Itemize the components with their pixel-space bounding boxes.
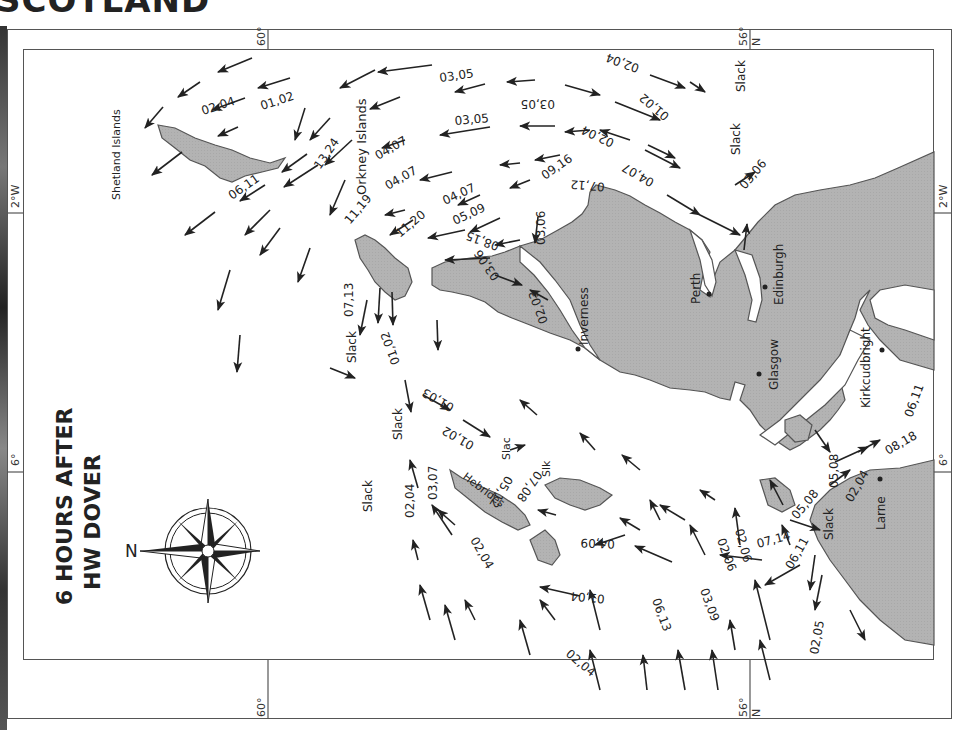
- compass-rose: [140, 499, 260, 603]
- place-kirkcudbright: Kirkcudbright: [859, 327, 873, 408]
- tidal-stream-map: 60° 56° N 60° 56° N 2°W 6° 2°W 6°: [0, 0, 959, 730]
- graticule-label-2w-right: 2°W: [937, 185, 950, 208]
- svg-text:04,07: 04,07: [440, 181, 477, 208]
- svg-text:08,18: 08,18: [883, 428, 920, 457]
- graticule-label-56-top: 56°: [737, 27, 750, 47]
- orkney-islands: [355, 235, 412, 300]
- svg-text:07,08: 07,08: [514, 468, 545, 504]
- svg-text:04,09: 04,09: [580, 536, 615, 551]
- place-larne: Larne: [874, 496, 888, 530]
- svg-text:07,12: 07,12: [570, 177, 605, 194]
- graticule-label-60-top: 60°: [255, 27, 268, 47]
- svg-text:Slack: Slack: [391, 408, 405, 440]
- place-shetland: Shetland Islands: [110, 109, 123, 200]
- svg-text:03,05: 03,05: [454, 111, 489, 128]
- svg-text:02,05: 02,05: [807, 619, 827, 655]
- svg-text:01,02: 01,02: [440, 423, 477, 452]
- svg-text:03,05: 03,05: [438, 66, 474, 85]
- place-glasgow: Glasgow: [767, 339, 781, 390]
- svg-text:01,04: 01,04: [570, 589, 605, 606]
- svg-text:01,02: 01,02: [259, 89, 296, 113]
- svg-text:05,08: 05,08: [827, 454, 841, 488]
- graticule-label-6-right: 6°: [937, 454, 950, 467]
- place-perth: Perth: [689, 273, 703, 304]
- graticule-label-60-bottom: 60°: [255, 698, 268, 718]
- svg-text:04,07: 04,07: [373, 133, 410, 162]
- svg-text:02,04: 02,04: [579, 123, 616, 150]
- svg-text:Slack: Slack: [734, 60, 748, 92]
- svg-text:03,06: 03,06: [534, 211, 548, 245]
- inner-hebrides-skye: [545, 478, 612, 510]
- graticule-label-n-top: N: [750, 38, 763, 46]
- inner-hebrides-mull: [530, 530, 560, 565]
- graticule-label-2w-left: 2°W: [9, 185, 22, 208]
- svg-text:02,04: 02,04: [200, 94, 237, 118]
- svg-text:05,09: 05,09: [450, 201, 487, 228]
- graticule-label-6-left: 6°: [9, 454, 22, 467]
- map-title-line1: 6 HOURS AFTER: [52, 408, 77, 605]
- graticule-label-56-bottom: 56°: [737, 698, 750, 718]
- svg-text:04,07: 04,07: [383, 163, 420, 192]
- svg-text:Slack: Slack: [729, 123, 743, 155]
- svg-text:03,06: 03,06: [737, 157, 770, 192]
- svg-text:06,11: 06,11: [902, 382, 927, 419]
- svg-text:03,05: 03,05: [521, 97, 555, 111]
- svg-text:01,02: 01,02: [378, 330, 403, 367]
- svg-text:02,04: 02,04: [563, 647, 598, 680]
- svg-text:07,14: 07,14: [755, 528, 792, 550]
- svg-text:11,19: 11,19: [342, 192, 375, 227]
- map-title-line2: HW DOVER: [80, 454, 105, 590]
- svg-text:Slac: Slac: [500, 437, 513, 460]
- svg-text:Slack: Slack: [822, 508, 836, 540]
- svg-text:02,04: 02,04: [604, 50, 641, 75]
- svg-text:06,13: 06,13: [649, 596, 674, 633]
- place-inverness: Inverness: [577, 287, 591, 345]
- place-orkney-islands: Orkney Islands: [354, 98, 369, 195]
- compass-north-label: N: [125, 541, 138, 561]
- svg-text:02,04: 02,04: [403, 484, 417, 518]
- svg-text:Slack: Slack: [361, 480, 375, 512]
- svg-text:07,13: 07,13: [342, 283, 356, 317]
- svg-text:02,04: 02,04: [467, 535, 496, 572]
- svg-text:03,09: 03,09: [697, 586, 722, 623]
- svg-text:Slack: Slack: [345, 331, 359, 363]
- svg-text:03,07: 03,07: [426, 466, 440, 500]
- svg-text:04,07: 04,07: [620, 160, 657, 189]
- place-edinburgh: Edinburgh: [772, 244, 786, 305]
- svg-text:01,03: 01,03: [420, 385, 457, 414]
- graticule-label-n-bottom: N: [750, 709, 763, 717]
